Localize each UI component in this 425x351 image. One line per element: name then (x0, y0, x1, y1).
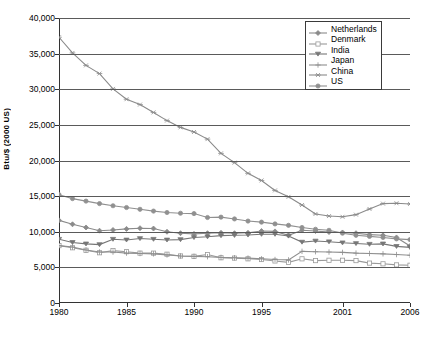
y-tick-label: 15,000 (3, 192, 55, 201)
y-tick-label: 40,000 (3, 14, 55, 23)
legend-label: Netherlands (328, 25, 377, 34)
gridline (59, 196, 410, 197)
gridline (59, 232, 410, 233)
legend-label: US (328, 77, 343, 86)
x-tick-label: 1995 (252, 308, 271, 317)
y-tick-mark (55, 267, 59, 268)
legend-item-india[interactable]: India (308, 45, 377, 56)
legend-label: Japan (328, 56, 354, 65)
legend-marker-star-icon (308, 66, 328, 76)
x-tick-label: 1990 (185, 308, 204, 317)
y-tick-label: 30,000 (3, 85, 55, 94)
legend-item-netherlands[interactable]: Netherlands (308, 24, 377, 35)
y-axis-tick-labels: 05,00010,00015,00020,00025,00030,00035,0… (0, 18, 55, 303)
gridline (59, 18, 410, 19)
legend-item-us[interactable]: US (308, 77, 377, 88)
y-tick-label: 10,000 (3, 228, 55, 237)
gridline (59, 161, 410, 162)
y-tick-mark (55, 54, 59, 55)
energy-intensity-line-chart: Btu/$ (2000 US) 05,00010,00015,00020,000… (0, 0, 425, 351)
y-tick-mark (55, 125, 59, 126)
legend-marker-triangle-icon (308, 45, 328, 55)
x-tick-label: 1980 (50, 308, 69, 317)
y-tick-label: 0 (3, 299, 55, 308)
y-tick-label: 5,000 (3, 263, 55, 272)
x-tick-label: 2006 (401, 308, 420, 317)
y-tick-label: 25,000 (3, 121, 55, 130)
y-tick-label: 35,000 (3, 50, 55, 59)
legend-marker-circle-icon (308, 77, 328, 87)
legend-label: China (328, 67, 353, 76)
x-tick-label: 2001 (333, 308, 352, 317)
chart-legend: NetherlandsDenmarkIndiaJapanChinaUS (305, 21, 382, 90)
legend-item-denmark[interactable]: Denmark (308, 35, 377, 46)
y-tick-mark (55, 89, 59, 90)
legend-label: Denmark (328, 35, 365, 44)
legend-marker-plus-icon (308, 56, 328, 66)
x-axis-tick-labels: 198019851990199520012006 (59, 308, 419, 322)
gridline (59, 267, 410, 268)
legend-label: India (328, 46, 349, 55)
y-tick-mark (55, 161, 59, 162)
y-tick-mark (55, 232, 59, 233)
legend-marker-square-icon (308, 35, 328, 45)
gridline (59, 125, 410, 126)
legend-item-china[interactable]: China (308, 66, 377, 77)
legend-item-japan[interactable]: Japan (308, 56, 377, 67)
y-tick-label: 20,000 (3, 157, 55, 166)
y-tick-mark (55, 196, 59, 197)
x-tick-label: 1985 (117, 308, 136, 317)
legend-marker-diamond-icon (308, 24, 328, 34)
y-tick-mark (55, 18, 59, 19)
